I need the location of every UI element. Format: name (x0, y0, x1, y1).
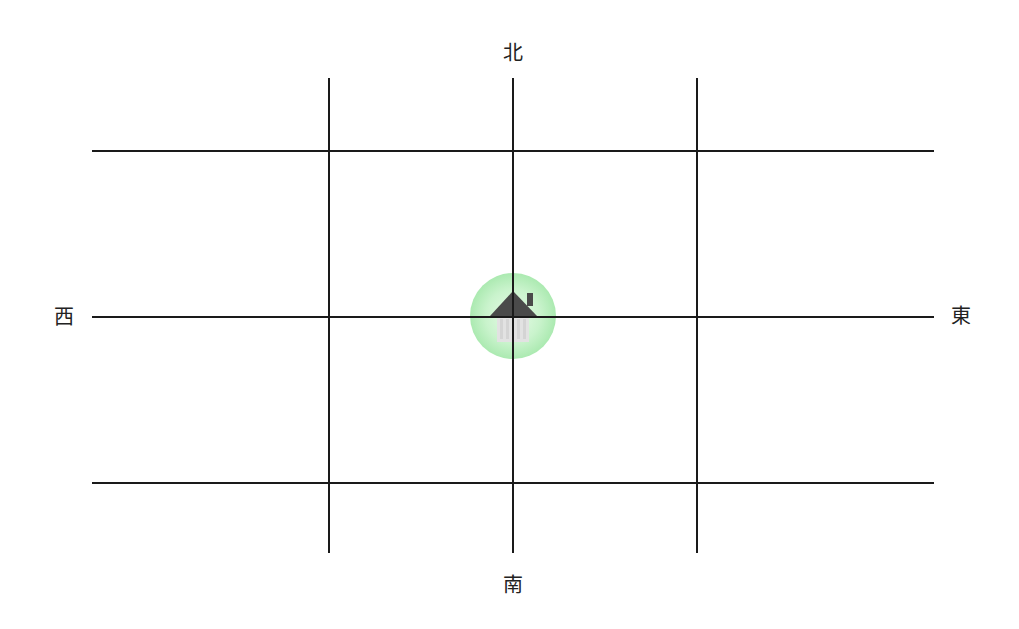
grid-line-vertical-left (328, 78, 330, 553)
grid-line-vertical-right (696, 78, 698, 553)
direction-label-east: 東 (951, 306, 971, 326)
direction-label-west: 西 (54, 307, 74, 327)
home-marker-glow (470, 273, 556, 359)
direction-label-south: 南 (503, 575, 523, 595)
direction-label-north: 北 (503, 43, 523, 63)
